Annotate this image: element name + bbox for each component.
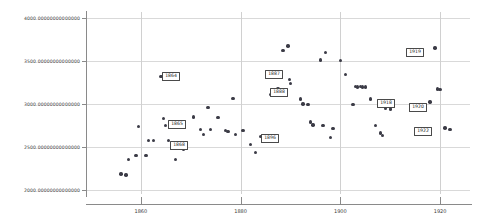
x-tick-mark (241, 197, 242, 204)
data-point[interactable] (443, 126, 446, 129)
data-point[interactable] (137, 125, 140, 128)
data-point[interactable] (364, 85, 367, 88)
y-tick-mark (82, 18, 86, 19)
y-tick-mark (82, 147, 86, 148)
data-point[interactable] (254, 151, 257, 154)
x-tick-label: 1880 (234, 208, 247, 214)
y-tick-mark (82, 190, 86, 191)
data-point[interactable] (119, 172, 122, 175)
data-point[interactable] (324, 51, 327, 54)
x-tick-label: 1900 (334, 208, 347, 214)
data-point[interactable] (311, 123, 314, 126)
x-tick-label: 1920 (434, 208, 447, 214)
point-annotation-label[interactable]: 1922 (414, 127, 432, 136)
data-point[interactable] (192, 115, 195, 118)
data-point[interactable] (438, 88, 441, 91)
y-tick-label: 3000.00000000000000 (0, 101, 80, 106)
gridline-horizontal (86, 61, 470, 62)
point-annotation-label[interactable]: 1887 (265, 70, 283, 79)
y-axis-spine (86, 11, 87, 197)
y-tick-label: 2500.00000000000000 (0, 144, 80, 149)
data-point[interactable] (344, 73, 347, 76)
data-point[interactable] (281, 49, 284, 52)
data-point[interactable] (433, 46, 436, 49)
data-point[interactable] (448, 128, 451, 131)
data-point[interactable] (329, 136, 332, 139)
data-point[interactable] (216, 116, 219, 119)
data-point[interactable] (289, 82, 292, 85)
data-point[interactable] (331, 127, 334, 130)
data-point[interactable] (127, 158, 130, 161)
point-annotation-label[interactable]: 1896 (261, 134, 279, 143)
data-point[interactable] (152, 139, 155, 142)
x-tick-mark (141, 197, 142, 204)
data-point[interactable] (351, 103, 354, 106)
data-point[interactable] (428, 100, 431, 103)
data-point[interactable] (306, 103, 309, 106)
data-point[interactable] (226, 130, 229, 133)
gridline-vertical (141, 12, 142, 194)
y-tick-label: 4000.00000000000000 (0, 16, 80, 21)
gridline-vertical (340, 12, 341, 194)
point-annotation-label[interactable]: 1920 (409, 103, 427, 112)
data-point[interactable] (206, 106, 209, 109)
data-point[interactable] (241, 129, 244, 132)
data-point[interactable] (209, 128, 212, 131)
data-point[interactable] (381, 134, 384, 137)
data-point[interactable] (301, 102, 304, 105)
x-axis-spine (86, 204, 472, 205)
gridline-horizontal (86, 147, 470, 148)
data-point[interactable] (231, 97, 234, 100)
data-point[interactable] (234, 133, 237, 136)
data-point[interactable] (299, 97, 302, 100)
data-point[interactable] (286, 44, 289, 47)
point-annotation-label[interactable]: 1919 (406, 48, 424, 57)
y-tick-mark (82, 104, 86, 105)
data-point[interactable] (288, 78, 291, 81)
gridline-vertical (241, 12, 242, 194)
data-point[interactable] (144, 154, 147, 157)
y-tick-label: 2000.00000000000000 (0, 187, 80, 192)
y-tick-mark (82, 61, 86, 62)
data-point[interactable] (124, 173, 127, 176)
y-tick-label: 3500.00000000000000 (0, 58, 80, 63)
x-tick-mark (340, 197, 341, 204)
data-point[interactable] (249, 143, 252, 146)
data-point[interactable] (199, 128, 202, 131)
point-annotation-label[interactable]: 1864 (162, 72, 180, 81)
data-point[interactable] (134, 154, 137, 157)
data-point[interactable] (369, 97, 372, 100)
gridline-horizontal (86, 190, 470, 191)
data-point[interactable] (319, 58, 322, 61)
data-point[interactable] (164, 124, 167, 127)
x-tick-label: 1860 (134, 208, 147, 214)
gridline-horizontal (86, 18, 470, 19)
data-point[interactable] (162, 117, 165, 120)
data-point[interactable] (374, 124, 377, 127)
scatter-chart-figure: 2000.000000000000002500.0000000000000030… (0, 0, 483, 224)
x-tick-mark (440, 197, 441, 204)
point-annotation-label[interactable]: 1868 (170, 141, 188, 150)
data-point[interactable] (202, 133, 205, 136)
gridline-vertical (440, 12, 441, 194)
point-annotation-label[interactable]: 1865 (168, 120, 186, 129)
data-point[interactable] (147, 139, 150, 142)
data-point[interactable] (174, 158, 177, 161)
data-point[interactable] (321, 124, 324, 127)
point-annotation-label[interactable]: 1888 (270, 88, 288, 97)
point-annotation-label[interactable]: 1918 (377, 99, 395, 108)
